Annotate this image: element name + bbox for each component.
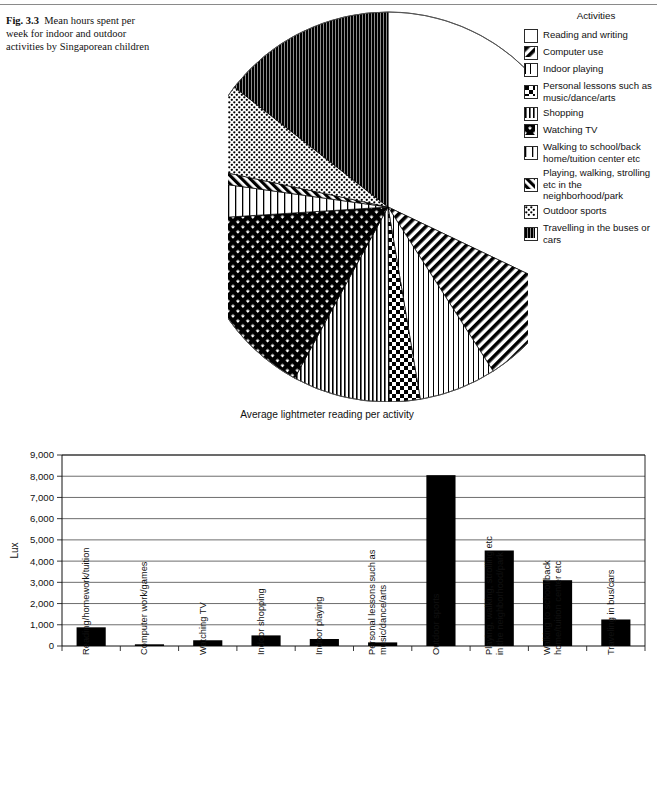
legend-swatch-diag-thick-fwd-icon	[524, 46, 538, 60]
y-axis-tick-label: 1,000	[30, 619, 54, 630]
bar-chart-title: Average lightmeter reading per activity	[240, 409, 415, 420]
legend-swatch-vlines-med-icon	[524, 107, 538, 121]
y-axis-tick-label: 2,000	[30, 598, 54, 609]
x-axis-category-label-line: Indoor playing	[314, 597, 324, 655]
legend-swatch-vlines-sparse-icon	[524, 63, 538, 77]
y-axis-tick-label: 7,000	[30, 492, 54, 503]
x-axis-category-label: Playing, walking, strolling etcin the ne…	[484, 536, 505, 655]
legend-title: Activities	[535, 10, 657, 22]
x-axis-category-label: Indoor shopping	[256, 588, 266, 655]
legend-item[interactable]: Computer use	[524, 46, 657, 60]
legend-item[interactable]: Indoor playing	[524, 63, 657, 77]
x-axis-category-label-line: Traveling in bus/cars	[606, 569, 616, 655]
x-axis-category-label: Outdoor sports	[431, 593, 441, 655]
legend-item-label: Personal lessons such as music/dance/art…	[543, 80, 657, 103]
x-axis-category-label: Indoor playing	[314, 597, 324, 655]
legend-item-label: Shopping	[543, 107, 657, 119]
x-axis-category-label: Watching TV	[198, 601, 208, 655]
legend-swatch-checker-icon	[524, 85, 538, 99]
pie-legend: Activities Reading and writingComputer u…	[524, 10, 657, 249]
legend-item[interactable]: Outdoor sports	[524, 205, 657, 219]
x-axis-category-label-line: Indoor shopping	[256, 588, 266, 655]
x-axis-category-label: Personal lessons such asmusic/dance/arts	[367, 549, 388, 655]
y-axis-tick-label: 6,000	[30, 513, 54, 524]
x-axis-category-label-line: Outdoor sports	[431, 593, 441, 655]
legend-swatch-blank-icon	[524, 29, 538, 43]
legend-item-label: Indoor playing	[543, 63, 657, 75]
legend-item[interactable]: Travelling in the buses or cars	[524, 222, 657, 245]
legend-item-label: Outdoor sports	[543, 205, 657, 217]
legend-swatch-crosshatch-dense-icon	[524, 124, 538, 138]
legend-item-label: Travelling in the buses or cars	[543, 222, 657, 245]
legend-item[interactable]: Walking to school/back home/tuition cent…	[524, 141, 657, 164]
figure-number: Fig. 3.3	[6, 15, 44, 26]
legend-item-label: Reading and writing	[543, 29, 657, 41]
x-axis-category-label-line: Walking to school/back	[542, 560, 552, 655]
page-top-rule	[0, 4, 657, 5]
y-axis-tick-label: 8,000	[30, 471, 54, 482]
x-axis-category-label-line: Watching TV	[198, 601, 208, 655]
legend-item[interactable]: Reading and writing	[524, 29, 657, 43]
x-axis-category-label-line: in the neighborhood/park	[495, 552, 505, 655]
legend-swatch-vlines-black-icon	[524, 227, 538, 241]
legend-item[interactable]: Personal lessons such as music/dance/art…	[524, 80, 657, 103]
legend-swatch-diag-back-icon	[524, 178, 538, 192]
x-axis-category-label-line: Computer work/games	[139, 561, 149, 655]
legend-swatch-vlines-wide-icon	[524, 146, 538, 160]
legend-item[interactable]: Playing, walking, strolling etc in the n…	[524, 167, 657, 202]
y-axis-tick-label: 9,000	[30, 449, 54, 460]
x-axis-category-label-line: Personal lessons such as	[367, 549, 377, 655]
y-axis-tick-label: 5,000	[30, 534, 54, 545]
legend-rows: Reading and writingComputer useIndoor pl…	[524, 29, 657, 246]
figure-caption: Fig. 3.3Mean hours spent per week for in…	[6, 14, 156, 54]
x-axis-category-label: Computer work/games	[139, 561, 149, 655]
x-axis-category-label-line: home/tuition center etc	[553, 561, 563, 655]
x-axis-category-label: Reading/homework/tuition	[81, 548, 91, 656]
bar-chart: Average lightmeter reading per activity0…	[0, 404, 657, 802]
pie-chart	[228, 6, 528, 402]
x-axis-category-label-line: Playing, walking, strolling etc	[484, 536, 494, 655]
x-axis-category-label-line: Reading/homework/tuition	[81, 548, 91, 656]
x-axis-category-label: Walking to school/backhome/tuition cente…	[542, 560, 563, 655]
y-axis-tick-label: 4,000	[30, 556, 54, 567]
legend-item[interactable]: Watching TV	[524, 124, 657, 138]
pie-slices	[228, 12, 528, 402]
legend-item-label: Playing, walking, strolling etc in the n…	[543, 167, 657, 202]
y-axis-title: Lux	[9, 542, 20, 558]
legend-swatch-dots-light-icon	[524, 205, 538, 219]
legend-item-label: Computer use	[543, 46, 657, 58]
x-axis-category-label: Traveling in bus/cars	[606, 569, 616, 655]
legend-item-label: Walking to school/back home/tuition cent…	[543, 141, 657, 164]
y-axis-tick-label: 3,000	[30, 577, 54, 588]
y-axis-tick-label: 0	[49, 640, 54, 651]
legend-item[interactable]: Shopping	[524, 107, 657, 121]
x-axis-category-label-line: music/dance/arts	[378, 584, 388, 655]
legend-item-label: Watching TV	[543, 124, 657, 136]
